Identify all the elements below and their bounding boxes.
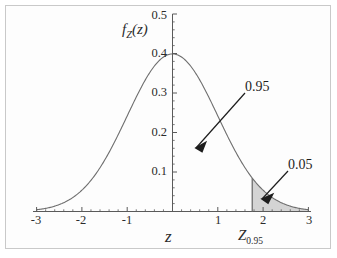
x-axis-label: z	[165, 228, 172, 245]
arrow-0.05	[262, 171, 288, 203]
x-tick-label--2: -2	[70, 214, 92, 227]
y-tick-label-0.2: 0.2	[141, 126, 167, 139]
critical-value-label: Z0.95	[238, 228, 263, 247]
y-tick-label-0.3: 0.3	[141, 86, 167, 99]
normal-distribution-figure: 0.5 0.4 0.3 0.2 0.1 -3 -2 -1 1 2 3 fZ(z)…	[0, 0, 337, 258]
x-tick-label--3: -3	[25, 214, 47, 227]
x-tick-label-2: 2	[252, 214, 274, 227]
x-tick-label-3: 3	[298, 214, 320, 227]
plot-canvas	[0, 0, 337, 258]
y-tick-label-0.4: 0.4	[141, 47, 167, 60]
shaded-tail-region	[252, 178, 308, 211]
area-label-0.05: 0.05	[288, 158, 313, 172]
y-axis-label: fZ(z)	[122, 22, 148, 41]
y-axis-label-arg: (z)	[132, 21, 148, 37]
y-tick-label-0.1: 0.1	[141, 165, 167, 178]
area-label-0.95: 0.95	[245, 80, 270, 94]
critical-value-subscript: 0.95	[246, 236, 263, 246]
x-tick-label--1: -1	[116, 214, 138, 227]
y-tick-label-0.5: 0.5	[141, 9, 167, 22]
x-tick-label-1: 1	[207, 214, 229, 227]
